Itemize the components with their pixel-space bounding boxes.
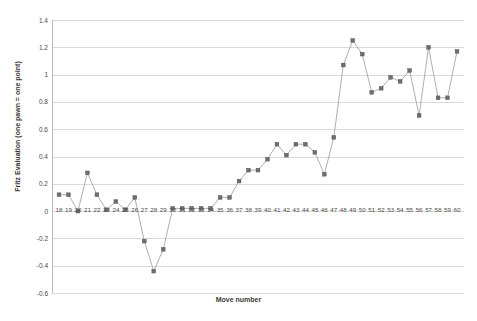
data-point-marker: [332, 135, 336, 139]
data-point-marker: [398, 80, 402, 84]
x-axis-tick-label: 23: [103, 205, 110, 214]
x-axis-tick-label: 39: [255, 205, 262, 214]
data-point-marker: [417, 114, 421, 118]
data-point-marker: [294, 142, 298, 146]
data-point-marker: [237, 179, 241, 183]
data-point-marker: [247, 168, 251, 172]
x-axis-tick-label: 57: [425, 205, 432, 214]
data-point-marker: [408, 69, 412, 73]
chart-bottom-rule: [52, 293, 464, 294]
data-point-marker: [370, 90, 374, 94]
x-axis-tick-label: 41: [274, 205, 281, 214]
series-line: [59, 40, 457, 271]
data-point-marker: [275, 142, 279, 146]
chart-container: 1.41.210.80.60.40.20-0.2-0.4-0.6 1819202…: [0, 0, 477, 321]
x-axis-tick-label: 44: [302, 205, 309, 214]
x-axis-tick-label: 19: [65, 205, 72, 214]
x-axis-tick-label: 55: [406, 205, 413, 214]
y-axis-line: [52, 20, 53, 293]
x-axis-tick-label: 42: [283, 205, 290, 214]
data-point-marker: [436, 96, 440, 100]
x-axis-tick-label: 43: [292, 205, 299, 214]
y-axis-tick-label: -0.2: [8, 235, 48, 242]
x-axis-title: Move number: [0, 296, 477, 303]
plot-area: [52, 20, 464, 293]
data-point-marker: [218, 196, 222, 200]
x-axis-tick-label: 34: [207, 205, 214, 214]
x-axis-tick-label: 32: [188, 205, 195, 214]
x-axis-tick-label: 29: [160, 205, 167, 214]
data-point-marker: [389, 75, 393, 79]
x-axis-tick-label: 54: [397, 205, 404, 214]
x-axis-tick-label: 47: [330, 205, 337, 214]
x-axis-tick-label: 50: [359, 205, 366, 214]
x-axis-tick-labels: 1819202122232425262728293031323334353637…: [52, 205, 464, 217]
x-axis-tick-label: 53: [387, 205, 394, 214]
data-point-marker: [313, 151, 317, 155]
x-axis-tick-label: 49: [349, 205, 356, 214]
x-axis-tick-label: 18: [56, 205, 63, 214]
x-axis-tick-label: 24: [112, 205, 119, 214]
x-axis-tick-label: 45: [311, 205, 318, 214]
data-point-marker: [95, 193, 99, 197]
x-axis-tick-label: 52: [378, 205, 385, 214]
data-point-marker: [266, 157, 270, 161]
y-axis-tick-labels: 1.41.210.80.60.40.20-0.2-0.4-0.6: [0, 20, 48, 293]
x-axis-tick-label: 22: [93, 205, 100, 214]
x-axis-tick-label: 56: [416, 205, 423, 214]
data-point-marker: [161, 247, 165, 251]
x-axis-tick-label: 21: [84, 205, 91, 214]
data-point-marker: [86, 171, 90, 175]
x-axis-tick-label: 40: [264, 205, 271, 214]
data-point-marker: [142, 239, 146, 243]
series-plot: [52, 20, 464, 293]
y-axis-tick-label: -0.4: [8, 262, 48, 269]
x-axis-tick-label: 30: [169, 205, 176, 214]
x-axis-tick-label: 38: [245, 205, 252, 214]
y-axis-tick-label: 1.4: [8, 17, 48, 24]
x-axis-tick-label: 28: [150, 205, 157, 214]
data-point-marker: [133, 196, 137, 200]
x-axis-tick-label: 51: [368, 205, 375, 214]
data-point-marker: [114, 200, 118, 204]
x-axis-tick-label: 27: [141, 205, 148, 214]
data-point-marker: [67, 193, 71, 197]
data-point-marker: [256, 168, 260, 172]
data-point-marker: [455, 49, 459, 53]
x-axis-tick-label: 20: [75, 205, 82, 214]
x-axis-tick-label: 46: [321, 205, 328, 214]
data-point-marker: [341, 63, 345, 67]
data-point-marker: [228, 196, 232, 200]
data-point-marker: [152, 269, 156, 273]
x-axis-tick-label: 37: [236, 205, 243, 214]
data-point-marker: [351, 39, 355, 43]
x-axis-tick-label: 25: [122, 205, 129, 214]
x-axis-tick-label: 26: [131, 205, 138, 214]
x-axis-tick-label: 48: [340, 205, 347, 214]
data-point-marker: [446, 96, 450, 100]
x-axis-tick-label: 60: [454, 205, 461, 214]
x-axis-tick-label: 33: [198, 205, 205, 214]
x-axis-tick-label: 58: [435, 205, 442, 214]
data-point-marker: [427, 45, 431, 49]
y-axis-title: Fritz Evaluation (one pawn = one point): [14, 27, 21, 227]
data-point-marker: [322, 172, 326, 176]
x-axis-tick-label: 31: [179, 205, 186, 214]
x-axis-tick-label: 35: [217, 205, 224, 214]
data-point-marker: [303, 142, 307, 146]
data-point-marker: [285, 153, 289, 157]
series-markers: [57, 39, 459, 273]
x-axis-tick-label: 36: [226, 205, 233, 214]
data-point-marker: [379, 86, 383, 90]
data-point-marker: [360, 52, 364, 56]
x-axis-tick-label: 59: [444, 205, 451, 214]
data-point-marker: [57, 193, 61, 197]
